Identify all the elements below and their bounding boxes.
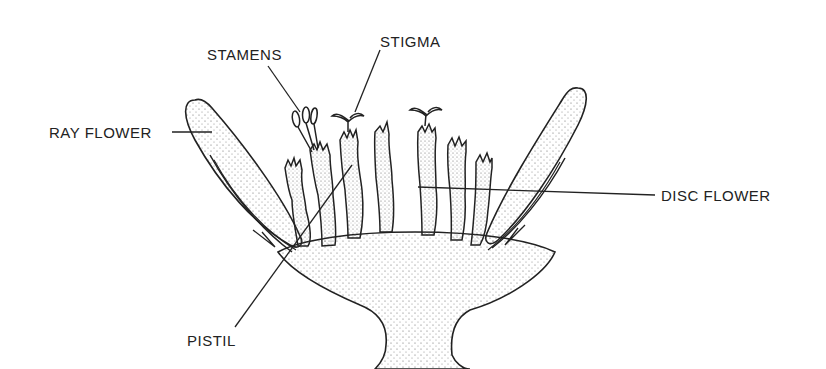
label-pistil: PISTIL: [187, 332, 236, 349]
label-ray-flower: RAY FLOWER: [49, 124, 152, 141]
label-disc-flower: DISC FLOWER: [661, 187, 771, 204]
leader-stamens: [268, 66, 300, 112]
ray-flower-left: [186, 99, 302, 247]
flower-illustration: [0, 0, 826, 369]
receptacle: [278, 232, 555, 369]
flower-diagram: STAMENS STIGMA RAY FLOWER DISC FLOWER PI…: [0, 0, 826, 369]
label-stigma: STIGMA: [380, 33, 441, 50]
leader-stigma: [355, 50, 380, 112]
ray-flower-right: [486, 88, 586, 244]
label-stamens: STAMENS: [207, 46, 282, 63]
